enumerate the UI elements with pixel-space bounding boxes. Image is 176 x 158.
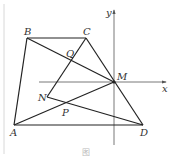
label-C: C [83, 26, 91, 37]
label-A: A [9, 127, 17, 138]
label-M: M [116, 71, 128, 82]
label-B: B [23, 26, 31, 37]
point-M-dot [112, 80, 115, 83]
label-N: N [37, 92, 48, 103]
label-Q: Q [66, 48, 74, 59]
label-D: D [139, 127, 148, 138]
x-axis-label: x [162, 83, 168, 94]
y-axis-label: y [105, 7, 112, 18]
segment-AB [14, 38, 27, 125]
segment-AM [14, 82, 114, 125]
figure-caption: 图 [82, 148, 90, 157]
geometry-figure: y x B C Q M N P A D 图 [0, 0, 176, 158]
label-P: P [61, 107, 69, 118]
segment-CN [47, 38, 86, 97]
